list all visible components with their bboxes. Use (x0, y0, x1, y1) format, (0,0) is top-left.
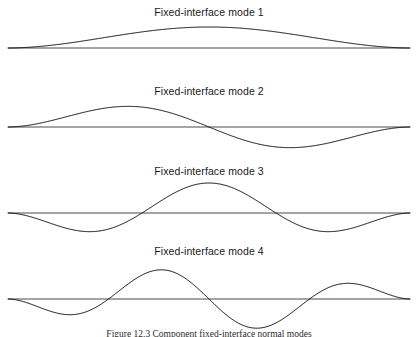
mode-4-label: Fixed-interface mode 4 (0, 245, 418, 257)
mode-1-label: Fixed-interface mode 1 (0, 6, 418, 18)
figure-container: Fixed-interface mode 1 Fixed-interface m… (0, 0, 418, 337)
mode-3-plot (0, 177, 418, 249)
mode-3-curve (8, 183, 410, 232)
mode-1-plot (0, 21, 418, 75)
mode-3-label: Fixed-interface mode 3 (0, 165, 418, 177)
mode-3-svg (0, 177, 418, 249)
mode-4-plot (0, 262, 418, 336)
figure-caption: Figure 12.3 Component fixed-interface no… (0, 329, 418, 337)
mode-1-svg (0, 21, 418, 75)
mode-2-plot (0, 95, 418, 159)
mode-2-svg (0, 95, 418, 159)
mode-4-svg (0, 262, 418, 336)
mode-1-curve (8, 27, 410, 48)
